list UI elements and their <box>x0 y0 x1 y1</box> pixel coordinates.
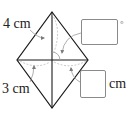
leader-4cm <box>30 30 44 38</box>
side-length-label-4cm: 4 cm <box>3 17 31 31</box>
cm-unit-label: cm <box>109 77 126 91</box>
guide-arc-right <box>54 61 86 66</box>
guide-arc-left <box>20 61 50 66</box>
guide-arc-top <box>52 14 58 52</box>
leader-angle <box>62 33 81 53</box>
side-length-label-3cm: 3 cm <box>2 82 30 96</box>
angle-arc <box>52 52 60 60</box>
length-answer-box[interactable] <box>80 70 106 98</box>
angle-answer-box[interactable] <box>81 19 118 45</box>
rhombus-diagram: 4 cm 3 cm ° cm <box>0 0 139 114</box>
degree-unit: ° <box>120 20 124 29</box>
